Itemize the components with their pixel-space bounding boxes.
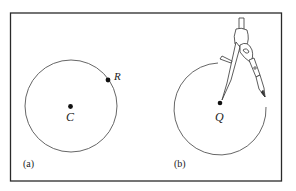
compass-icon <box>220 18 265 100</box>
center-label-c: C <box>66 110 75 124</box>
center-point-q <box>218 101 223 106</box>
panel-a: C R (a) <box>23 60 121 170</box>
point-label-r: R <box>113 70 121 82</box>
center-point-c <box>68 104 73 109</box>
diagram: C R (a) Q (b) <box>0 0 296 191</box>
arc-b <box>174 63 266 155</box>
point-r <box>106 78 111 83</box>
panel-label-b: (b) <box>174 158 186 170</box>
panel-b: Q (b) <box>174 18 266 170</box>
center-label-q: Q <box>215 110 224 124</box>
panel-label-a: (a) <box>23 158 34 170</box>
